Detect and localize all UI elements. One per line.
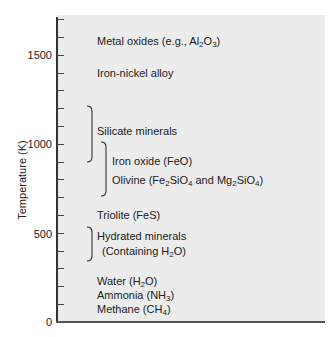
label-iron-oxide: Iron oxide (FeO)	[112, 155, 192, 168]
tick-300	[57, 268, 64, 269]
label-methane: Methane (CH4)	[97, 303, 171, 316]
label-hydrated-containing: (Containing H2O)	[102, 245, 186, 258]
tick-1100	[57, 126, 64, 127]
tick-700	[57, 197, 64, 198]
tick-label-1500: 1500	[28, 49, 52, 61]
y-axis-label: Temperature (K)	[16, 130, 28, 230]
y-axis-line	[56, 17, 58, 323]
tick-400	[57, 251, 64, 252]
olivine-bracket	[100, 141, 110, 198]
tick-1600	[57, 37, 64, 38]
tick-1000	[57, 144, 64, 145]
hydrated-bracket	[86, 226, 96, 263]
silicate-bracket	[86, 105, 96, 163]
tick-900	[57, 162, 64, 163]
x-axis-line	[56, 321, 325, 323]
tick-1400	[57, 73, 64, 74]
tick-label-0: 0	[46, 316, 52, 328]
tick-600	[57, 215, 64, 216]
tick-label-500: 500	[34, 228, 52, 240]
tick-1700	[57, 19, 64, 20]
tick-1200	[57, 108, 64, 109]
tick-1300	[57, 90, 64, 91]
tick-label-1000: 1000	[28, 138, 52, 150]
tick-1500	[57, 55, 64, 56]
tick-800	[57, 179, 64, 180]
label-olivine: Olivine (Fe2SiO4 and Mg2SiO4)	[112, 174, 263, 187]
label-triolite: Triolite (FeS)	[97, 209, 160, 222]
label-silicate: Silicate minerals	[97, 125, 177, 138]
label-iron-nickel: Iron-nickel alloy	[97, 67, 173, 80]
label-water: Water (H2O)	[97, 275, 157, 288]
label-metal-oxides: Metal oxides (e.g., Al2O3)	[97, 35, 220, 48]
label-ammonia: Ammonia (NH3)	[97, 289, 174, 302]
tick-200	[57, 286, 64, 287]
tick-100	[57, 304, 64, 305]
tick-500	[57, 233, 64, 234]
label-hydrated: Hydrated minerals	[97, 230, 186, 243]
